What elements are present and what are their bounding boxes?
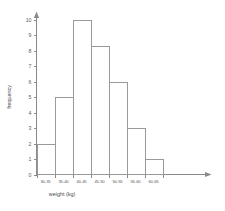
- histogram-chart: 012345678910 30-3535-4040-4545-5050-5555…: [0, 0, 225, 211]
- x-axis-tick-label: 55-60: [130, 179, 141, 184]
- y-axis-tick-label: 2: [29, 141, 32, 147]
- x-axis-tick-labels: 30-3535-4040-4545-5050-5555-6060-65: [40, 179, 159, 184]
- x-axis-tick-label: 45-50: [94, 179, 105, 184]
- y-axis-tick-labels: 012345678910: [26, 17, 32, 178]
- y-axis-tick-label: 4: [29, 110, 32, 116]
- y-axis-tick-label: 9: [29, 32, 32, 38]
- y-axis-tick-label: 5: [29, 94, 32, 100]
- y-axis-tick-label: 6: [29, 79, 32, 85]
- histogram-bar: [92, 47, 110, 175]
- histogram-bar: [56, 98, 74, 175]
- x-axis-title: weight (kg): [48, 191, 76, 197]
- x-axis-tick-label: 35-40: [58, 179, 69, 184]
- x-axis-tick-label: 60-65: [148, 179, 159, 184]
- x-axis-tick-label: 40-45: [76, 179, 87, 184]
- x-axis-tick-label: 50-55: [112, 179, 123, 184]
- x-axis-tick-label: 30-35: [40, 179, 51, 184]
- histogram-bar: [128, 129, 146, 175]
- y-axis-title: frequency: [6, 85, 12, 109]
- y-axis-arrow-icon: [34, 12, 39, 19]
- histogram-bar: [38, 145, 56, 175]
- histogram-bar: [110, 83, 128, 175]
- chart-canvas: 012345678910 30-3535-4040-4545-5050-5555…: [0, 0, 225, 211]
- histogram-bar: [146, 160, 164, 175]
- y-axis-tick-label: 8: [29, 48, 32, 54]
- y-axis-tick-label: 10: [26, 17, 32, 23]
- y-axis-tick-label: 1: [29, 156, 32, 162]
- histogram-bar: [74, 21, 92, 175]
- y-axis-tick-label: 7: [29, 63, 32, 69]
- x-axis-arrow-icon: [205, 172, 212, 177]
- histogram-bars: [38, 21, 164, 175]
- y-axis-tick-label: 0: [29, 172, 32, 178]
- y-axis-tick-label: 3: [29, 125, 32, 131]
- x-axis: 30-3535-4040-4545-5050-5555-6060-65: [37, 172, 212, 184]
